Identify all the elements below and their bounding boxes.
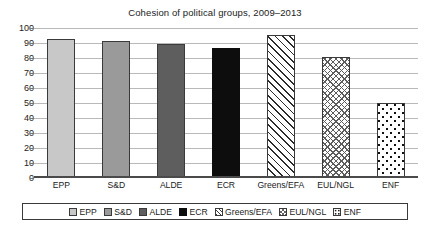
legend-item[interactable]: EUL/NGL	[279, 207, 326, 217]
legend-item[interactable]: ECR	[179, 207, 208, 217]
bar-slot	[34, 28, 89, 178]
legend-swatch-icon	[179, 208, 187, 216]
legend-item[interactable]: Greens/EFA	[215, 207, 272, 217]
legend-item[interactable]: ENF	[333, 207, 361, 217]
legend-label: S&D	[114, 207, 132, 217]
x-tick-label: ENF	[363, 180, 418, 190]
chart-legend: EPPS&DALDEECRGreens/EFAEUL/NGLENF	[22, 203, 408, 220]
bar-epp[interactable]	[47, 39, 75, 178]
legend-swatch-icon	[104, 208, 112, 216]
legend-swatch-icon	[139, 208, 147, 216]
bar-slot	[144, 28, 199, 178]
legend-swatch-icon	[333, 208, 341, 216]
bar-alde[interactable]	[157, 44, 185, 178]
x-tick-label: S&D	[89, 180, 144, 190]
bar-enf[interactable]	[377, 103, 405, 178]
legend-label: ALDE	[149, 207, 171, 217]
legend-item[interactable]: S&D	[104, 207, 132, 217]
x-tick-label: EUL/NGL	[308, 180, 363, 190]
bar-s-d[interactable]	[102, 41, 130, 178]
x-tick-label: Greens/EFA	[253, 180, 308, 190]
bar-slot	[363, 28, 418, 178]
bar-slot	[199, 28, 254, 178]
bar-eul-ngl[interactable]	[322, 57, 350, 178]
bar-slot	[253, 28, 308, 178]
bar-slot	[89, 28, 144, 178]
x-tick-label: ECR	[199, 180, 254, 190]
legend-label: ECR	[189, 207, 207, 217]
legend-item[interactable]: EPP	[69, 207, 97, 217]
legend-label: EUL/NGL	[289, 207, 326, 217]
legend-swatch-icon	[215, 208, 223, 216]
bar-series	[34, 28, 418, 178]
bar-slot	[308, 28, 363, 178]
legend-label: EPP	[80, 207, 97, 217]
y-tick-mark	[30, 178, 34, 179]
legend-label: ENF	[344, 207, 361, 217]
bar-ecr[interactable]	[212, 48, 240, 179]
chart-title: Cohesion of political groups, 2009–2013	[0, 7, 430, 18]
legend-item[interactable]: ALDE	[139, 207, 172, 217]
plot-area	[34, 28, 418, 178]
chart-container: Cohesion of political groups, 2009–2013 …	[0, 0, 430, 236]
y-axis: 0102030405060708090100	[0, 28, 34, 178]
bar-greens-efa[interactable]	[267, 35, 295, 178]
x-tick-label: ALDE	[144, 180, 199, 190]
x-tick-label: EPP	[34, 180, 89, 190]
x-axis-labels: EPPS&DALDEECRGreens/EFAEUL/NGLENF	[34, 180, 418, 194]
x-axis-line	[34, 176, 418, 178]
legend-swatch-icon	[279, 208, 287, 216]
legend-label: Greens/EFA	[225, 207, 272, 217]
legend-swatch-icon	[69, 208, 77, 216]
